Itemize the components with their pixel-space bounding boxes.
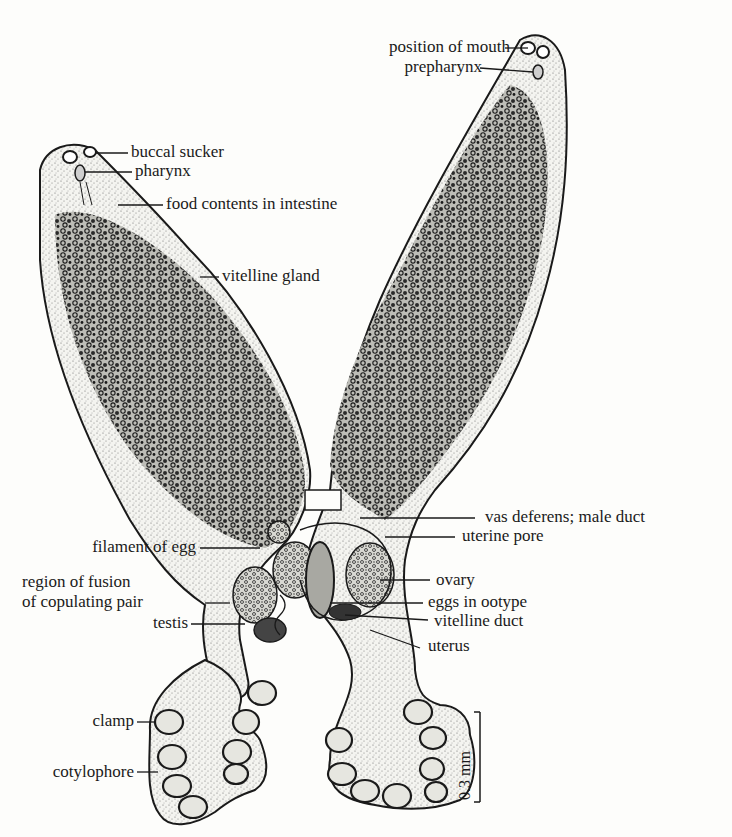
label-pharynx: pharynx [135, 162, 191, 180]
label-prepharynx: prepharynx [300, 58, 482, 76]
label-vitelline-gland: vitelline gland [222, 267, 320, 285]
label-vitelline-duct: vitelline duct [434, 612, 523, 630]
label-uterine-pore: uterine pore [462, 527, 544, 545]
label-position-of-mouth: position of mouth [300, 38, 510, 56]
label-cotylophore: cotylophore [10, 763, 134, 781]
label-eggs-in-ootype: eggs in ootype [428, 593, 527, 611]
label-buccal-sucker: buccal sucker [131, 143, 224, 161]
label-clamp: clamp [40, 712, 134, 730]
label-region-of-fusion-1: region of fusion [22, 573, 131, 591]
label-uterus: uterus [428, 637, 470, 655]
figure-canvas: position of mouth prepharynx buccal suck… [0, 0, 732, 837]
label-ovary: ovary [436, 571, 475, 589]
label-food-contents: food contents in intestine [166, 195, 337, 213]
label-filament-of-egg: filament of egg [20, 538, 196, 556]
right-worm [304, 35, 567, 809]
label-testis: testis [100, 614, 188, 632]
scale-bar-label: 0.3 mm [456, 751, 474, 800]
label-vas-deferens: vas deferens; male duct [485, 508, 645, 526]
label-region-of-fusion-2: of copulating pair [22, 593, 143, 611]
